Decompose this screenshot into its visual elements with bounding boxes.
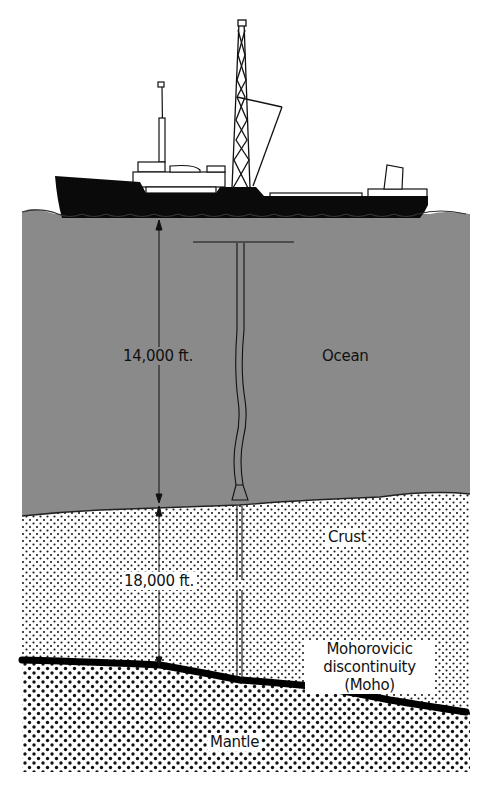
moho-label-line-3: (Moho) <box>307 676 432 694</box>
moho-label-line-1: Mohorovicic <box>307 640 432 658</box>
drilling-ship <box>22 20 466 218</box>
moho-label: Mohorovicic discontinuity (Moho) <box>305 640 434 694</box>
ocean-label: Ocean <box>322 347 368 365</box>
crust-label: Crust <box>326 528 368 546</box>
ship-mast <box>158 82 165 162</box>
crust-thickness-label: 18,000 ft. <box>122 572 196 590</box>
mantle-label: Mantle <box>208 733 261 751</box>
moho-label-line-2: discontinuity <box>307 658 432 676</box>
ship-hull <box>55 176 428 218</box>
drilling-cross-section-diagram: 14,000 ft. Ocean Crust 18,000 ft. Mohoro… <box>0 0 489 785</box>
ocean-layer <box>22 209 470 516</box>
derrick-tower <box>232 20 282 188</box>
ocean-depth-label: 14,000 ft. <box>123 347 193 365</box>
